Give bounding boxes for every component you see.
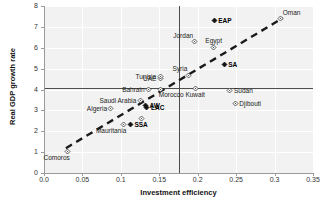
data-point-label: Bahrain xyxy=(122,86,144,93)
data-point-label: Jordan xyxy=(173,32,193,39)
data-point-marker[interactable] xyxy=(192,39,197,44)
y-tick-label: 3 xyxy=(16,106,38,114)
y-tick-mark xyxy=(41,69,44,70)
x-tick-label: 0.15 xyxy=(144,176,174,184)
y-tick-label: 7 xyxy=(16,23,38,31)
y-tick-mark xyxy=(41,27,44,28)
data-point-label: SA xyxy=(228,61,237,68)
x-tick-label: 0.0 xyxy=(29,176,59,184)
y-tick-mark xyxy=(41,6,44,7)
x-tick-label: 0.2 xyxy=(183,176,213,184)
y-tick-mark xyxy=(41,152,44,153)
y-tick-label: 6 xyxy=(16,44,38,52)
x-tick-label: 0.05 xyxy=(67,176,97,184)
data-point-marker[interactable] xyxy=(158,74,163,79)
x-axis-title: Investment efficiency xyxy=(44,188,313,197)
data-point-marker[interactable] xyxy=(222,62,227,67)
y-axis-line xyxy=(44,6,45,173)
gridline-vertical xyxy=(313,6,314,173)
data-point-label: Algeria xyxy=(87,105,107,112)
y-tick-label: 2 xyxy=(16,127,38,135)
x-tick-label: 0.3 xyxy=(260,176,290,184)
data-point-marker[interactable] xyxy=(212,18,217,23)
data-point-label: Mauritania xyxy=(96,127,126,134)
data-point-marker[interactable] xyxy=(121,122,126,127)
data-point-marker[interactable] xyxy=(144,105,149,110)
y-tick-label: 1 xyxy=(16,148,38,156)
x-tick-label: 0.35 xyxy=(298,176,321,184)
y-tick-mark xyxy=(41,90,44,91)
y-tick-mark xyxy=(41,131,44,132)
y-tick-mark xyxy=(41,48,44,49)
y-tick-label: 8 xyxy=(16,2,38,10)
data-point-marker[interactable] xyxy=(278,16,283,21)
x-tick-label: 0.25 xyxy=(221,176,251,184)
data-point-label: Saudi Arabia xyxy=(99,97,136,104)
data-point-label: Morocco xyxy=(159,91,184,98)
data-point-label: Syria xyxy=(172,65,187,72)
y-tick-mark xyxy=(41,110,44,111)
data-point-marker[interactable] xyxy=(139,116,144,121)
data-point-label: Comoros xyxy=(43,154,69,161)
data-point-label: EAP xyxy=(218,17,231,24)
data-point-label: Djibouti xyxy=(239,100,261,107)
y-tick-label: 4 xyxy=(16,86,38,94)
scatter-chart: Investment efficiency Real GDP growth ra… xyxy=(0,0,321,217)
data-point-marker[interactable] xyxy=(128,122,133,127)
data-point-label: Egypt xyxy=(205,37,222,44)
data-point-marker[interactable] xyxy=(65,149,70,154)
data-point-marker[interactable] xyxy=(108,106,113,111)
data-point-marker[interactable] xyxy=(193,86,198,91)
data-point-label: Oman xyxy=(283,9,301,16)
y-tick-label: 5 xyxy=(16,65,38,73)
data-point-label: LAC xyxy=(151,104,164,111)
data-point-label: SSA xyxy=(134,121,147,128)
data-point-marker[interactable] xyxy=(186,73,191,78)
data-point-marker[interactable] xyxy=(227,88,232,93)
data-point-marker[interactable] xyxy=(211,45,216,50)
data-point-label: Tunisia xyxy=(135,73,156,80)
data-point-label: Sudan xyxy=(234,87,253,94)
data-point-label: Kuwait xyxy=(185,91,205,98)
x-axis-line xyxy=(44,173,313,174)
data-point-marker[interactable] xyxy=(146,87,151,92)
data-point-marker[interactable] xyxy=(233,101,238,106)
x-tick-label: 0.1 xyxy=(106,176,136,184)
